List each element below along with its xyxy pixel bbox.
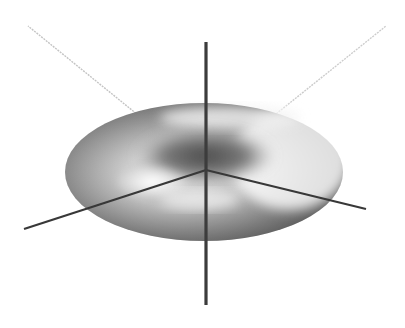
torus-top-light	[160, 106, 300, 130]
torus-diagram	[0, 0, 405, 328]
torus-front-bottom-highlight	[160, 190, 240, 210]
